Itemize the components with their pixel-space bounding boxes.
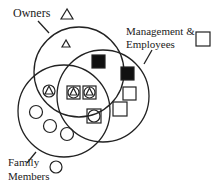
triangle-icon (86, 88, 93, 95)
management-legend-square-icon (196, 32, 210, 46)
owners-circle (34, 27, 124, 117)
owners-label: Owners (13, 7, 50, 19)
triangle-icon (70, 88, 77, 95)
triangle-icon (62, 40, 70, 47)
owners-legend-triangle-icon (61, 9, 73, 19)
management-label-line2: Employees (126, 38, 175, 50)
square-icon (113, 102, 127, 116)
circle-icon (44, 120, 57, 133)
circle-icon (30, 106, 43, 119)
filled-square-icon (92, 55, 105, 68)
family-label-line1: Family (8, 156, 39, 168)
venn-diagram: Owners Management & Employees Family Mem… (0, 0, 221, 191)
owners-leader (38, 21, 49, 33)
family-label-line2: Members (8, 170, 50, 182)
management-leader (144, 50, 152, 64)
square-icon (123, 87, 136, 100)
family-legend-circle-icon (50, 161, 62, 173)
circle-icon (61, 128, 74, 141)
triangle-icon (45, 86, 53, 94)
filled-square-icon (121, 67, 134, 80)
management-label-line1: Management & (126, 25, 195, 37)
